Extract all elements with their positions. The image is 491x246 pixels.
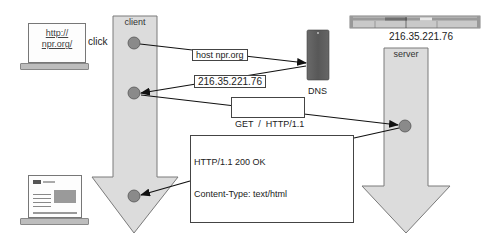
server-lane-label: server	[384, 49, 428, 59]
page-photo	[54, 190, 76, 203]
dns-server-icon	[307, 30, 329, 80]
response-content-type: Content-Type: text/html	[194, 189, 350, 200]
server-ip-label: 216.35.221.76	[389, 32, 453, 42]
client-lane-label: client	[113, 17, 157, 27]
url-line-1[interactable]: http://	[30, 28, 84, 38]
client-node-click	[128, 37, 140, 49]
client-node-render	[128, 190, 140, 202]
http-request-message: GET / HTTP/1.1 Host: npr.org	[231, 97, 305, 118]
url-line-2[interactable]: npr.org/	[30, 39, 84, 49]
click-label: click	[88, 37, 107, 47]
response-status: HTTP/1.1 200 OK	[194, 157, 350, 168]
http-response-message: HTTP/1.1 200 OK Content-Type: text/html …	[190, 135, 354, 223]
client-node-dns-reply	[128, 87, 140, 99]
page-nav	[43, 181, 55, 183]
http-request-line: GET / HTTP/1.1	[235, 119, 301, 130]
dns-query-message: host npr.org	[192, 49, 248, 61]
dns-response-message: 216.35.221.76	[194, 75, 266, 88]
server-rack-icon	[350, 16, 480, 28]
dns-label: DNS	[308, 86, 327, 96]
page-logo	[33, 180, 41, 184]
page-caption	[33, 212, 77, 214]
server-lane-arrow	[362, 48, 450, 233]
page-headline	[33, 194, 51, 210]
response-blank	[194, 221, 350, 232]
server-node-request	[399, 120, 411, 132]
